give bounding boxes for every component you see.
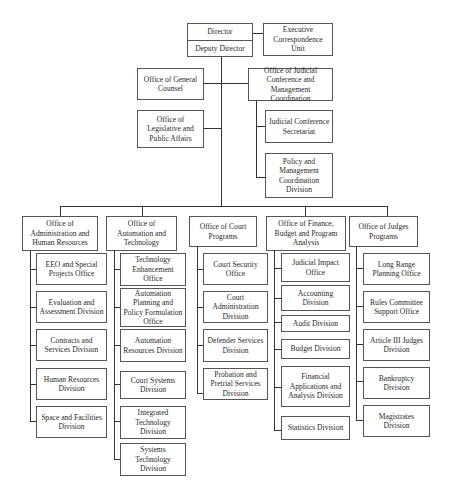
connector [356, 344, 363, 345]
bankruptcy-box: Bankruptcy Division [363, 367, 430, 399]
evaluation-assessment-box: Evaluation and Assessment Division [36, 291, 107, 323]
offices-bus [60, 206, 388, 207]
connector [204, 83, 248, 84]
court-security-box: Court Security Office [203, 253, 268, 285]
director-label: Director [188, 24, 252, 40]
finance-spine [274, 251, 275, 431]
connector [142, 206, 143, 216]
deputy-director-label: Deputy Director [188, 40, 252, 57]
office-judges-programs-box: Office of Judges Programs [349, 216, 418, 247]
connector [356, 381, 363, 382]
connector [274, 349, 281, 350]
budget-box: Budget Division [281, 339, 350, 359]
connector [256, 126, 265, 127]
judicial-impact-box: Judicial Impact Office [281, 253, 350, 282]
admin-spine [30, 251, 31, 422]
connector [305, 206, 306, 216]
office-automation-box: Office of Automation and Technology [106, 216, 177, 251]
judges-spine [356, 247, 357, 421]
article-iii-judges-box: Article III Judges Division [363, 329, 430, 361]
integrated-technology-box: Integrated Technology Division [120, 406, 186, 439]
office-administration-box: Office of Administration and Human Resou… [22, 216, 98, 251]
director-box: Director Deputy Director [187, 23, 253, 57]
human-resources-box: Human Resources Division [36, 368, 107, 400]
jc-spine [256, 101, 257, 178]
connector [274, 387, 281, 388]
financial-applications-box: Financial Applications and Analysis Divi… [281, 366, 350, 407]
audit-box: Audit Division [281, 315, 350, 332]
connector [356, 268, 363, 269]
automation-planning-box: Automation Planning and Policy Formulati… [120, 288, 186, 327]
main-spine [221, 57, 222, 207]
judicial-conference-box: Office of Judicial Conference and Manage… [248, 68, 333, 101]
legislative-affairs-box: Office of Legislative and Public Affairs [137, 110, 204, 148]
general-counsel-box: Office of General Counsel [137, 68, 204, 100]
automation-resources-box: Automation Resources Division [120, 329, 186, 362]
connector [60, 206, 61, 216]
connector [274, 322, 281, 323]
office-court-programs-box: Office of Court Programs [189, 216, 257, 247]
connector [204, 128, 221, 129]
connector [356, 306, 363, 307]
connector [387, 206, 388, 216]
probation-pretrial-box: Probation and Pretrial Services Division [203, 368, 268, 400]
court-administration-box: Court Administration Division [203, 291, 268, 323]
defender-services-box: Defender Services Division [203, 329, 268, 362]
long-range-planning-box: Long Range Planning Office [363, 253, 430, 285]
contracts-services-box: Contracts and Services Division [36, 329, 107, 361]
space-facilities-box: Space and Facilities Division [36, 406, 107, 438]
statistics-box: Statistics Division [281, 416, 350, 440]
court-systems-box: Court Systems Division [120, 371, 186, 399]
magistrates-box: Magistrates Division [363, 405, 430, 437]
systems-technology-box: Systems Technology Division [120, 443, 186, 476]
office-finance-box: Office of Finance, Budget and Program An… [266, 216, 346, 251]
eeo-special-projects-box: EEO and Special Projects Office [36, 253, 107, 285]
accounting-box: Accounting Division [281, 285, 350, 311]
executive-correspondence-unit-box: Executive Correspondence Unit [263, 23, 333, 56]
technology-enhancement-box: Technology Enhancement Office [120, 253, 186, 286]
connector [274, 298, 281, 299]
connector [274, 430, 281, 431]
connector [253, 33, 263, 34]
jc-secretariat-box: Judicial Conference Secretariat [265, 110, 333, 143]
connector [274, 268, 281, 269]
connector [356, 420, 363, 421]
rules-committee-box: Rules Committee Support Office [363, 291, 430, 323]
automation-spine [114, 251, 115, 460]
connector [256, 177, 265, 178]
policy-management-box: Policy and Management Coordination Divis… [265, 153, 333, 198]
